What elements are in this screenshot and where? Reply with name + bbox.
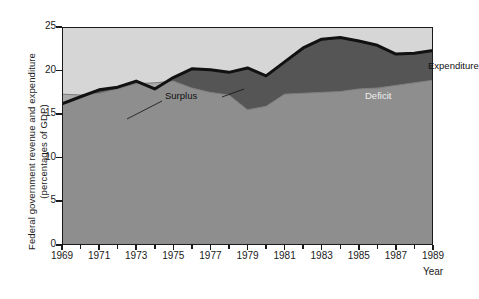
x-tick-mark — [61, 245, 63, 250]
x-tick-label: 1985 — [339, 250, 379, 261]
x-tick-mark — [135, 245, 137, 250]
x-tick-mark-minor — [228, 245, 230, 249]
x-tick-mark-minor — [377, 245, 379, 249]
x-tick-label: 1989 — [413, 250, 453, 261]
y-tick-label: 25 — [34, 20, 56, 31]
x-tick-mark-minor — [154, 245, 156, 249]
x-tick-mark — [247, 245, 249, 250]
x-tick-mark — [321, 245, 323, 250]
y-tick-label: 10 — [34, 151, 56, 162]
y-tick-label: 0 — [34, 238, 56, 249]
x-tick-mark-minor — [302, 245, 304, 249]
annotation-surplus: Surplus — [165, 90, 197, 101]
x-tick-mark — [432, 245, 434, 250]
x-tick-mark-minor — [414, 245, 416, 249]
annotation-expenditure: Expenditure — [428, 60, 479, 71]
annotation-deficit: Deficit — [365, 90, 391, 101]
y-tick-label: 5 — [34, 194, 56, 205]
x-tick-mark — [358, 245, 360, 250]
x-tick-label: 1969 — [42, 250, 82, 261]
x-tick-mark — [395, 245, 397, 250]
x-tick-label: 1971 — [79, 250, 119, 261]
plot-area: Surplus Deficit Expenditure — [62, 27, 433, 245]
y-axis-title: Federal government revenue and expenditu… — [0, 0, 34, 299]
x-tick-label: 1977 — [190, 250, 230, 261]
x-tick-mark-minor — [80, 245, 82, 249]
x-tick-label: 1987 — [376, 250, 416, 261]
x-tick-label: 1983 — [302, 250, 342, 261]
x-tick-label: 1981 — [265, 250, 305, 261]
x-tick-mark-minor — [191, 245, 193, 249]
x-tick-mark-minor — [117, 245, 119, 249]
x-tick-mark — [173, 245, 175, 250]
y-tick-label: 15 — [34, 107, 56, 118]
x-tick-mark-minor — [265, 245, 267, 249]
y-tick-label: 20 — [34, 64, 56, 75]
x-tick-label: 1975 — [153, 250, 193, 261]
x-tick-mark — [98, 245, 100, 250]
chart-canvas — [62, 27, 433, 245]
x-tick-label: 1973 — [116, 250, 156, 261]
x-tick-mark — [284, 245, 286, 250]
x-tick-mark-minor — [340, 245, 342, 249]
x-tick-label: 1979 — [228, 250, 268, 261]
x-axis-title: Year — [413, 266, 453, 277]
x-tick-mark — [210, 245, 212, 250]
